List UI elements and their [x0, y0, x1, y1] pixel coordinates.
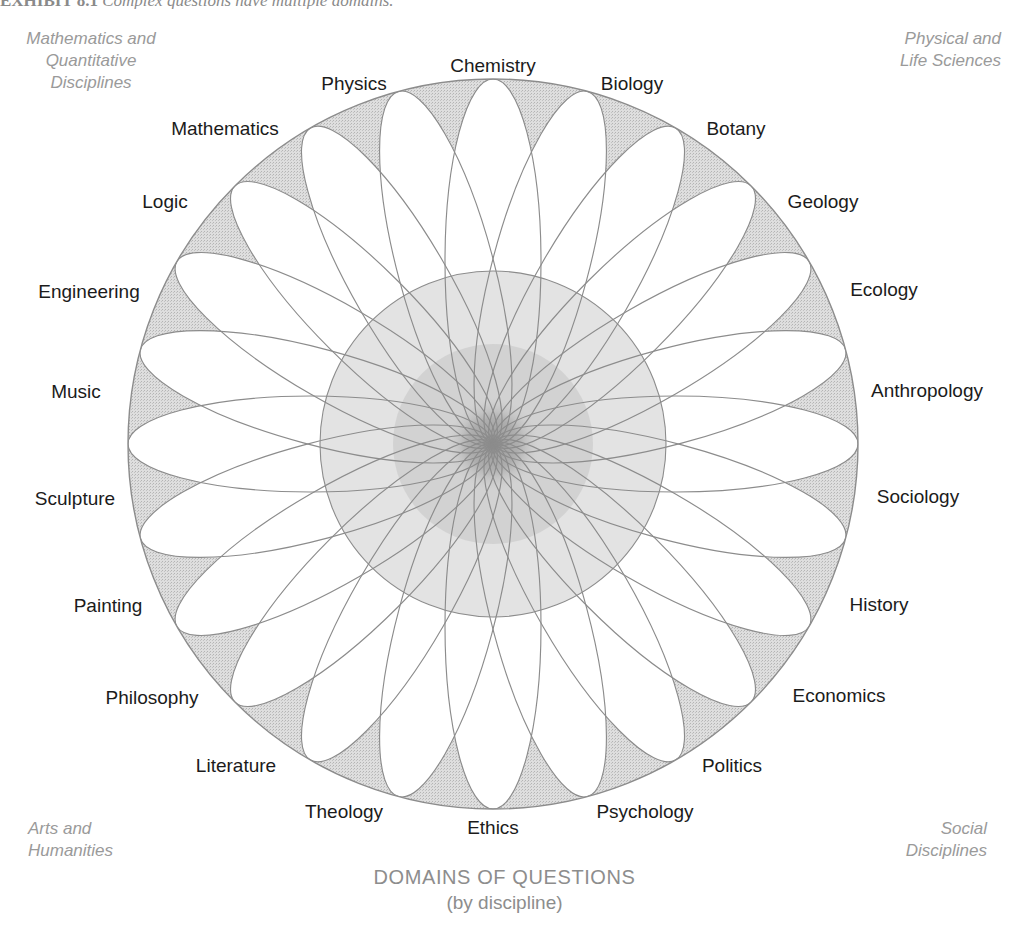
discipline-label-theology: Theology — [305, 801, 383, 823]
caption-line-2: (by discipline) — [0, 890, 1009, 916]
quadrant-label-physical-life-sciences: Physical and Life Sciences — [811, 28, 1001, 72]
discipline-label-geology: Geology — [788, 191, 859, 213]
discipline-label-ethics: Ethics — [467, 817, 519, 839]
discipline-label-painting: Painting — [74, 595, 143, 617]
discipline-label-anthropology: Anthropology — [871, 380, 983, 402]
discipline-label-music: Music — [51, 381, 101, 403]
discipline-label-engineering: Engineering — [38, 281, 139, 303]
discipline-label-mathematics: Mathematics — [171, 118, 279, 140]
discipline-label-sculpture: Sculpture — [35, 488, 115, 510]
discipline-label-economics: Economics — [793, 685, 886, 707]
discipline-label-politics: Politics — [702, 755, 762, 777]
quadrant-label-social-disciplines: Social Disciplines — [797, 818, 987, 862]
discipline-label-ecology: Ecology — [850, 279, 918, 301]
discipline-label-chemistry: Chemistry — [450, 55, 536, 77]
discipline-label-sociology: Sociology — [877, 486, 959, 508]
figure-caption: DOMAINS OF QUESTIONS (by discipline) — [0, 864, 1009, 916]
discipline-label-physics: Physics — [321, 73, 386, 95]
discipline-label-botany: Botany — [706, 118, 765, 140]
discipline-label-history: History — [849, 594, 908, 616]
rosette-figure: ChemistryBiologyBotanyGeologyEcologyAnth… — [0, 0, 1009, 925]
caption-line-1: DOMAINS OF QUESTIONS — [0, 864, 1009, 890]
discipline-label-philosophy: Philosophy — [106, 687, 199, 709]
quadrant-label-arts-humanities: Arts and Humanities — [28, 818, 218, 862]
discipline-label-psychology: Psychology — [596, 801, 693, 823]
quadrant-label-math-quantitative: Mathematics and Quantitative Disciplines — [6, 28, 176, 94]
discipline-label-biology: Biology — [601, 73, 663, 95]
discipline-label-literature: Literature — [196, 755, 276, 777]
discipline-label-logic: Logic — [142, 191, 187, 213]
rosette-svg — [0, 0, 1009, 925]
